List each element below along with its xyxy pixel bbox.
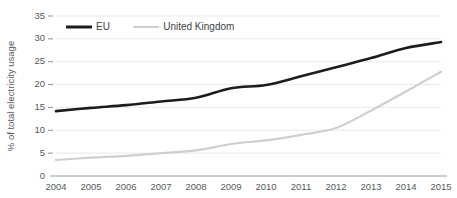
y-axis-tick-label: 30 [34,32,45,43]
x-axis-tick-label: 2011 [291,181,311,192]
x-axis: 2004200520062007200820092010201120122013… [45,181,451,192]
x-axis-tick-label: 2005 [80,181,101,192]
x-axis-tick-label: 2007 [150,181,171,192]
x-axis-tick-label: 2012 [325,181,346,192]
legend-label-eu: EU [96,21,110,32]
x-axis-tick-label: 2013 [360,181,381,192]
y-axis-tick-label: 15 [34,101,45,112]
legend-label-united-kingdom: United Kingdom [163,21,234,32]
x-axis-tick-label: 2006 [115,181,136,192]
y-axis-tick-label: 25 [34,55,45,66]
legend: EUUnited Kingdom [66,21,234,32]
legend-item-eu[interactable]: EU [66,21,110,32]
y-axis-tick-label: 10 [34,124,45,135]
y-axis-tick-label: 20 [34,78,45,89]
y-axis-tick-label: 5 [40,147,45,158]
x-axis-tick-label: 2015 [430,181,451,192]
line-chart: 05101520253035% of total electricity usa… [0,0,457,198]
y-axis-title: % of total electricity usage [5,41,16,151]
chart-canvas: 05101520253035% of total electricity usa… [0,0,457,198]
series-line-united-kingdom [56,72,441,160]
x-axis-tick-label: 2008 [185,181,206,192]
series-line-eu [56,42,441,111]
legend-item-united-kingdom[interactable]: United Kingdom [133,21,234,32]
x-axis-tick-label: 2004 [45,181,66,192]
y-axis-tick-label: 35 [34,10,45,21]
y-axis-tick-label: 0 [40,170,45,181]
x-axis-tick-label: 2009 [220,181,241,192]
y-axis: 05101520253035 [34,10,53,181]
x-axis-tick-label: 2014 [395,181,416,192]
gridlines [56,16,441,153]
x-axis-tick-label: 2010 [255,181,276,192]
